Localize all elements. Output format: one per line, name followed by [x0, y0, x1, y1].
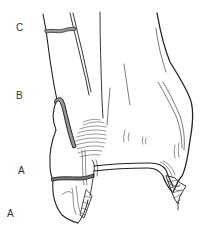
ankle-fracture-diagram	[0, 0, 206, 234]
fracture-level-label-b: B	[16, 91, 23, 101]
lateral-ligament	[80, 190, 92, 218]
fracture-line-c	[45, 27, 76, 33]
talus-joint	[90, 160, 182, 196]
tibia	[100, 12, 193, 192]
fracture-line-b	[55, 98, 76, 148]
figure-panel-label: A	[7, 209, 14, 219]
fracture-line-a	[52, 174, 94, 181]
fracture-level-label-a: A	[18, 166, 25, 176]
fracture-level-label-c: C	[16, 23, 23, 33]
syndesmotic-ligament	[76, 119, 106, 157]
